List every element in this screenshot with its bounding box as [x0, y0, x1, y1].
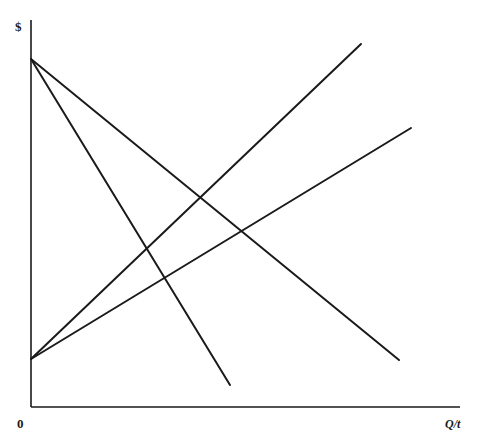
- y-axis-label-dollar: $: [15, 19, 22, 34]
- line-rising-steep: [31, 44, 361, 359]
- line-falling-shallow: [31, 59, 399, 360]
- x-axis-label-quantity-per-time: Q/t: [445, 417, 461, 431]
- line-falling-steep: [31, 59, 230, 385]
- origin-label: 0: [17, 416, 24, 431]
- economics-diagram: $ 0 Q/t: [0, 0, 483, 439]
